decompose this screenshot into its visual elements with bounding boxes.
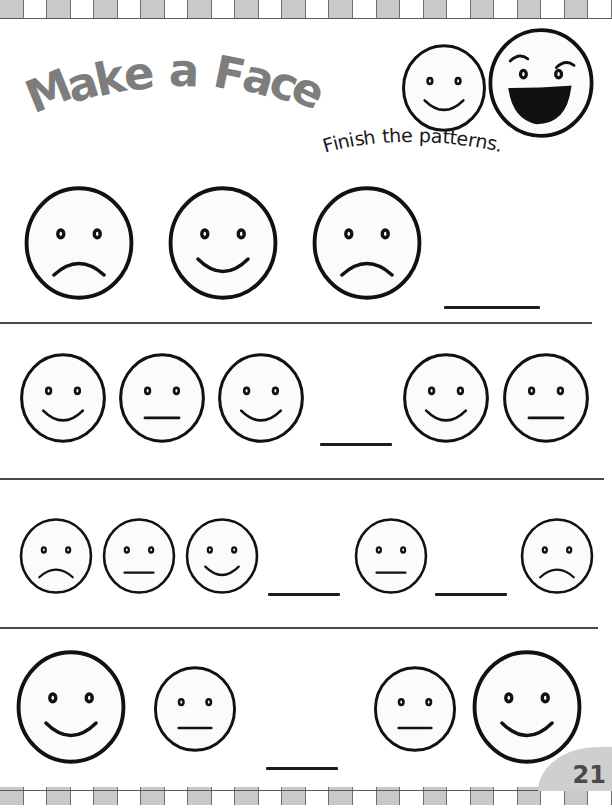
border-cell <box>424 0 448 18</box>
border-cell <box>494 0 518 18</box>
border-cell <box>377 0 401 18</box>
face-happy-icon <box>18 353 108 443</box>
face-neutral-icon <box>353 518 429 594</box>
border-cell <box>24 0 48 18</box>
answer-blank-line[interactable] <box>320 443 392 446</box>
row-divider <box>0 478 604 480</box>
border-cell <box>306 0 330 18</box>
face-neutral-icon <box>117 353 207 443</box>
face-neutral-icon <box>101 518 177 594</box>
answer-blank-line[interactable] <box>266 767 338 770</box>
border-cell <box>47 0 71 18</box>
answer-blank-line[interactable] <box>444 306 540 309</box>
face-sad-icon <box>310 186 424 300</box>
border-cell <box>329 0 353 18</box>
border-cell <box>447 0 471 18</box>
border-cell <box>400 0 424 18</box>
face-happy-icon <box>470 650 584 764</box>
face-sad-icon <box>18 518 94 594</box>
mascot-large-laugh-icon <box>486 28 596 138</box>
face-sad-icon <box>519 518 595 594</box>
title-char: e <box>120 46 157 103</box>
border-cell <box>353 0 377 18</box>
border-cell <box>565 0 589 18</box>
border-cell <box>71 0 95 18</box>
border-cell <box>541 0 565 18</box>
border-cell <box>259 0 283 18</box>
border-cell <box>518 0 542 18</box>
border-cell <box>165 0 189 18</box>
top-border-rule <box>0 18 612 19</box>
border-cell <box>118 0 142 18</box>
border-cell <box>212 0 236 18</box>
answer-blank-line[interactable] <box>268 593 340 596</box>
bottom-border-rule <box>0 790 612 791</box>
border-cell <box>188 0 212 18</box>
title-char: a <box>168 43 200 97</box>
border-cell <box>0 0 24 18</box>
border-cell <box>94 0 118 18</box>
border-cell <box>282 0 306 18</box>
face-neutral-icon <box>501 353 591 443</box>
row-divider <box>0 322 592 324</box>
face-happy-icon <box>166 186 280 300</box>
mascot-small-smile-icon <box>400 44 488 132</box>
face-neutral-icon <box>152 666 238 752</box>
face-happy-icon <box>401 353 491 443</box>
face-sad-icon <box>22 186 136 300</box>
page-title: Make a Face <box>18 44 334 97</box>
row-divider <box>0 627 598 629</box>
border-cell <box>471 0 495 18</box>
face-neutral-icon <box>372 666 458 752</box>
border-cell <box>141 0 165 18</box>
face-happy-icon <box>184 518 260 594</box>
border-cell <box>235 0 259 18</box>
worksheet-page: Make a Face Finish the patterns. 21 <box>0 0 612 809</box>
face-happy-icon <box>14 650 128 764</box>
face-happy-icon <box>216 353 306 443</box>
border-cell <box>588 0 612 18</box>
answer-blank-line[interactable] <box>435 593 507 596</box>
page-number: 21 <box>573 761 606 789</box>
